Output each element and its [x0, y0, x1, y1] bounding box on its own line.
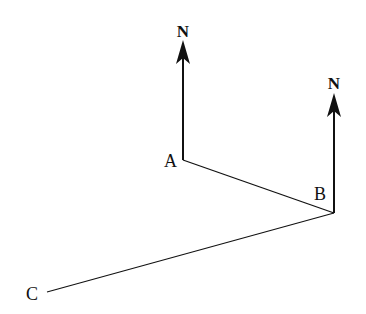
north-label-a: N — [177, 22, 190, 41]
north-arrow-b: N — [327, 74, 341, 213]
north-label-b: N — [328, 74, 341, 93]
bearing-diagram: N N A B C — [0, 0, 366, 314]
point-label-c: C — [26, 284, 38, 304]
north-arrow-a: N — [176, 22, 190, 160]
segment-ab — [183, 160, 334, 213]
segment-bc — [47, 213, 334, 292]
point-label-a: A — [164, 151, 177, 171]
point-label-b: B — [314, 184, 326, 204]
